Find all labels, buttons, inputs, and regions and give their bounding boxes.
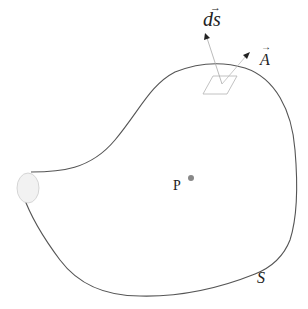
A-vector — [222, 56, 246, 84]
closed-surface-curve — [23, 64, 297, 296]
surface-S-label: S — [257, 269, 265, 286]
diagram-canvas: ds → A → P S — [0, 0, 308, 309]
A-label: A — [259, 51, 270, 68]
ds-vector — [207, 38, 222, 84]
point-P-dot — [188, 175, 194, 181]
point-P-label: P — [173, 178, 181, 193]
elliptical-opening — [17, 173, 39, 203]
ds-label-arrow: → — [210, 1, 221, 13]
ds-arrowhead-icon — [204, 33, 210, 40]
A-label-arrow: → — [261, 41, 271, 52]
